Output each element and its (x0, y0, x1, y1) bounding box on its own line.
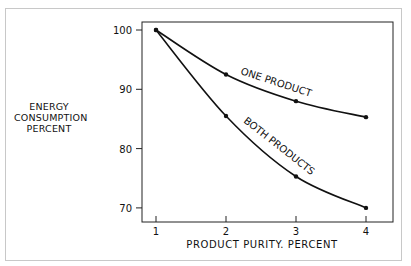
svg-text:90: 90 (119, 84, 132, 95)
x-axis-label: PRODUCT PURITY. PERCENT (186, 239, 338, 250)
y-axis-ticks: 708090100 (113, 25, 142, 214)
svg-text:3: 3 (293, 226, 299, 237)
both-products-label: BOTH PRODUCTS (242, 115, 317, 177)
svg-text:1: 1 (153, 226, 159, 237)
x-axis-ticks: 1234 (153, 216, 369, 237)
one-product-label: ONE PRODUCT (239, 65, 313, 99)
svg-text:4: 4 (363, 226, 369, 237)
svg-text:70: 70 (119, 203, 132, 214)
svg-text:80: 80 (119, 144, 132, 155)
svg-text:100: 100 (113, 25, 132, 36)
chart-svg: 708090100 1234 ONE PRODUCT BOTH PRODUCTS… (0, 0, 411, 266)
svg-text:2: 2 (223, 226, 229, 237)
plot-area (142, 22, 393, 222)
data-curves (154, 28, 368, 210)
